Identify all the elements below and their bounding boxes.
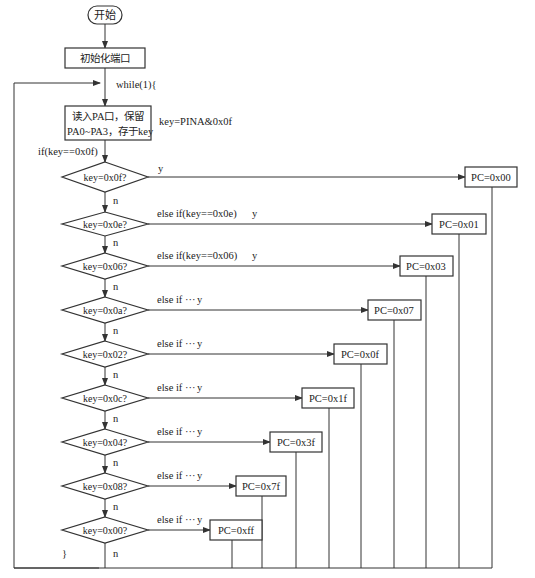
svg-text:PC=0x1f: PC=0x1f [309, 393, 348, 404]
svg-text:key=0x0f?: key=0x0f? [84, 172, 127, 183]
flowchart: 开始 初始化端口 while(1){ 读入PA口，保留 PA0~PA3，存于ke… [0, 0, 535, 578]
branch-label: else if ··· [157, 338, 195, 349]
result-pc-0x7f: PC=0x7f [236, 476, 286, 496]
svg-text:PC=0x7f: PC=0x7f [242, 481, 281, 492]
svg-text:PC=0x0f: PC=0x0f [341, 349, 380, 360]
decision-0x02: key=0x02? [62, 341, 148, 367]
svg-text:PC=0x00: PC=0x00 [471, 172, 511, 183]
result-pc-0x00: PC=0x00 [465, 167, 517, 187]
yes-label: y [252, 208, 258, 219]
result-pc-0x3f: PC=0x3f [270, 432, 322, 452]
svg-text:PC=0xff: PC=0xff [218, 525, 255, 536]
svg-text:key=0x00?: key=0x00? [83, 525, 128, 536]
branch-label: else if(key==0x06) [157, 250, 238, 262]
svg-text:PC=0x03: PC=0x03 [406, 261, 446, 272]
decision-0x00: key=0x00? [62, 517, 148, 543]
no-label: n [113, 457, 119, 468]
no-label: n [113, 237, 119, 248]
svg-text:key=0x02?: key=0x02? [83, 349, 128, 360]
decision-0x0e: key=0x0e? [62, 212, 148, 236]
result-pc-0x0f: PC=0x0f [334, 344, 387, 364]
yes-label: y [197, 382, 203, 393]
yes-label: y [197, 514, 203, 525]
branch-label: else if ··· [157, 294, 195, 305]
yes-label: y [197, 338, 203, 349]
result-pc-0xff: PC=0xff [210, 520, 262, 540]
branch-label: else if ··· [157, 514, 195, 525]
yes-label: y [158, 163, 164, 174]
svg-text:PC=0x01: PC=0x01 [439, 219, 479, 230]
result-pc-0x01: PC=0x01 [432, 214, 486, 234]
start-terminal: 开始 [88, 6, 122, 24]
branch-label: else if ··· [157, 470, 195, 481]
init-label: 初始化端口 [80, 52, 130, 64]
loop-close-brace: } [62, 548, 67, 559]
svg-text:PC=0x3f: PC=0x3f [277, 437, 316, 448]
result-pc-0x03: PC=0x03 [400, 256, 453, 276]
read-line-1: 读入PA口，保留 [72, 110, 144, 122]
svg-text:key=0x08?: key=0x08? [83, 481, 128, 492]
no-label: n [113, 501, 119, 512]
svg-text:PC=0x07: PC=0x07 [374, 305, 414, 316]
decision-0x08: key=0x08? [62, 473, 148, 499]
no-label: n [113, 413, 119, 424]
branch-label: else if(key==0x0e) [157, 208, 237, 220]
yes-label: y [197, 294, 203, 305]
decision-0x0a: key=0x0a? [62, 297, 148, 323]
while-label: while(1){ [116, 79, 157, 91]
decision-0x0c: key=0x0c? [62, 385, 148, 411]
no-label: n [113, 195, 119, 206]
no-label: n [113, 281, 119, 292]
decision-0x06: key=0x06? [62, 253, 148, 279]
yes-label: y [197, 426, 203, 437]
svg-text:key=0x0a?: key=0x0a? [83, 305, 128, 316]
read-annotation: key=PINA&0x0f [159, 116, 233, 127]
svg-text:key=0x0e?: key=0x0e? [83, 219, 128, 230]
no-label: n [113, 548, 119, 559]
read-line-2: PA0~PA3，存于key [67, 125, 154, 137]
no-label: n [113, 325, 119, 336]
no-label: n [113, 369, 119, 380]
svg-text:key=0x04?: key=0x04? [83, 437, 128, 448]
result-pc-0x1f: PC=0x1f [302, 388, 354, 408]
yes-label: y [197, 470, 203, 481]
svg-text:key=0x06?: key=0x06? [83, 261, 128, 272]
branch-label: else if ··· [157, 426, 195, 437]
decision-0x0f: key=0x0f? [62, 162, 148, 192]
start-label: 开始 [94, 8, 116, 21]
yes-label: y [252, 250, 258, 261]
init-port-box: 初始化端口 [65, 48, 145, 68]
result-pc-0x07: PC=0x07 [368, 300, 421, 320]
branch-label: else if ··· [157, 382, 195, 393]
svg-text:key=0x0c?: key=0x0c? [83, 393, 128, 404]
first-if-label: if(key==0x0f) [38, 146, 98, 158]
read-port-box: 读入PA口，保留 PA0~PA3，存于key [65, 106, 154, 140]
decision-0x04: key=0x04? [62, 429, 148, 455]
